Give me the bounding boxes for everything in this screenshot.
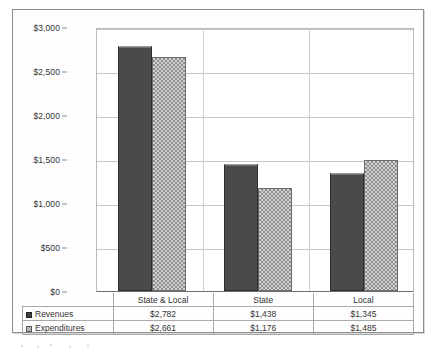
- bar-expenditures-state: [258, 188, 292, 291]
- y-axis-tick-label: $3,000: [33, 23, 60, 33]
- y-axis: $0$500$1,000$1,500$2,000$2,500$3,000: [13, 28, 96, 292]
- hatched-square-icon: [26, 326, 32, 332]
- y-axis-tick-label: $2,000: [33, 111, 60, 121]
- chart-figure-frame: $0$500$1,000$1,500$2,000$2,500$3,000 Sta…: [12, 9, 424, 333]
- y-axis-tick-mark: [62, 116, 67, 117]
- bar-group: [97, 29, 203, 291]
- y-axis-tick-label: $500: [41, 243, 60, 253]
- bar-group: [309, 29, 415, 291]
- legend-label: Expenditures: [35, 323, 85, 333]
- table-row: Expenditures$2,661$1,176$1,485: [23, 321, 414, 335]
- data-cell: $2,661: [113, 321, 213, 335]
- y-axis-tick-label: $1,500: [33, 155, 60, 165]
- data-cell: $1,485: [313, 321, 413, 335]
- y-axis-tick-mark: [62, 160, 67, 161]
- bar-revenues-local: [330, 173, 364, 291]
- column-header-state-local: State & Local: [113, 293, 213, 307]
- bar-revenues-state: [224, 164, 258, 291]
- bar-revenues-state-local: [118, 46, 152, 291]
- data-cell: $1,438: [213, 307, 313, 321]
- column-header-local: Local: [313, 293, 413, 307]
- table-header-row: State & LocalStateLocal: [23, 293, 414, 307]
- plot-area: [96, 28, 414, 292]
- bar-expenditures-local: [364, 160, 398, 291]
- solid-square-icon: [26, 312, 32, 318]
- data-cell: $1,176: [213, 321, 313, 335]
- table-corner-cell: [23, 293, 114, 307]
- legend-item-expenditures: Expenditures: [23, 321, 114, 335]
- y-axis-tick-mark: [62, 72, 67, 73]
- y-axis-tick-label: $1,000: [33, 199, 60, 209]
- bar-expenditures-state-local: [152, 57, 186, 291]
- legend-item-revenues: Revenues: [23, 307, 114, 321]
- bar-group: [203, 29, 309, 291]
- data-table: State & LocalStateLocalRevenues$2,782$1,…: [22, 293, 414, 335]
- table-row: Revenues$2,782$1,438$1,345: [23, 307, 414, 321]
- scan-artifact: [18, 344, 108, 349]
- data-cell: $1,345: [313, 307, 413, 321]
- legend-label: Revenues: [35, 309, 73, 319]
- y-axis-tick-mark: [62, 248, 67, 249]
- y-axis-tick-mark: [62, 28, 67, 29]
- column-header-state: State: [213, 293, 313, 307]
- y-axis-tick-label: $2,500: [33, 67, 60, 77]
- y-axis-tick-mark: [62, 204, 67, 205]
- data-cell: $2,782: [113, 307, 213, 321]
